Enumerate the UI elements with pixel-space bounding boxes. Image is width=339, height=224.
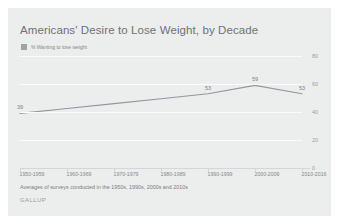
chart-footnote: Averages of surveys conducted in the 195…: [20, 184, 188, 190]
gridline: [20, 84, 302, 85]
y-axis-tick-label: 40: [312, 109, 318, 115]
chart-card: Americans' Desire to Lose Weight, by Dec…: [8, 8, 331, 216]
x-axis-tick-mark: [255, 168, 256, 172]
y-axis-tick-label: 20: [312, 137, 318, 143]
series-polyline: [20, 85, 302, 113]
data-point-label: 53: [205, 85, 211, 91]
y-axis-tick-label: 60: [312, 81, 318, 87]
data-point-label: 53: [299, 85, 305, 91]
gridline: [20, 140, 302, 141]
x-axis-tick-mark: [161, 168, 162, 172]
gridline: [20, 112, 302, 113]
x-axis-tick-label: 1980-1989: [161, 171, 186, 177]
x-axis-tick-label: 1990-1999: [208, 171, 233, 177]
gridline: [20, 56, 302, 57]
y-axis-tick-label: 80: [312, 53, 318, 59]
chart-legend: % Wanting to lose weight: [21, 44, 87, 50]
x-axis-tick-label: 1970-1979: [114, 171, 139, 177]
chart-title: Americans' Desire to Lose Weight, by Dec…: [20, 24, 258, 36]
y-axis: 020406080: [308, 56, 336, 168]
plot-area: 39535953: [20, 56, 302, 168]
x-axis-tick-mark: [208, 168, 209, 172]
x-axis-tick-mark: [114, 168, 115, 172]
data-point-label: 39: [17, 104, 23, 110]
gallup-logo: GALLUP: [20, 197, 46, 203]
x-axis-tick-label: 1950-1959: [20, 171, 45, 177]
data-point-label: 59: [252, 76, 258, 82]
x-axis-tick-mark: [20, 168, 21, 172]
x-axis-tick-label: 2000-2009: [255, 171, 280, 177]
legend-swatch-icon: [21, 44, 27, 50]
x-axis-tick-label: 2010-2016: [302, 171, 327, 177]
x-axis-tick-mark: [67, 168, 68, 172]
x-axis-line: [20, 168, 310, 169]
legend-label: % Wanting to lose weight: [31, 44, 87, 50]
x-axis-tick-mark: [302, 168, 303, 172]
x-axis: 1950-19591960-19691970-19791980-19891990…: [20, 171, 312, 183]
x-axis-tick-label: 1960-1969: [67, 171, 92, 177]
